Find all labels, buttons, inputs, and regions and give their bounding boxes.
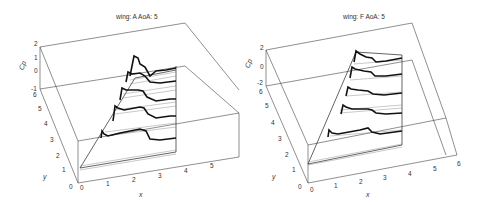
y-tick: 2 <box>285 151 289 158</box>
y-axis-label: y <box>272 173 276 180</box>
y-tick: 0 <box>298 183 302 190</box>
x-tick: 3 <box>383 174 387 181</box>
z-tick: 0 <box>34 67 38 74</box>
x-axis-label: x <box>366 191 370 198</box>
y-axis-label: y <box>43 173 47 180</box>
x-tick: 4 <box>408 170 412 177</box>
y-tick: 4 <box>271 119 275 126</box>
x-tick: 5 <box>210 162 214 169</box>
plot-wing-a-canvas <box>0 0 240 205</box>
z-tick: 2 <box>260 44 264 51</box>
y-tick: 6 <box>259 88 263 95</box>
plot-title: wing: A AoA: 5 <box>116 13 158 20</box>
x-tick: 4 <box>184 167 188 174</box>
x-tick: 3 <box>158 172 162 179</box>
x-axis-label: x <box>139 191 143 198</box>
x-tick: 2 <box>359 178 363 185</box>
z-tick: 2 <box>34 40 38 47</box>
x-tick: 0 <box>80 184 84 191</box>
x-tick: 1 <box>106 180 110 187</box>
y-tick: 3 <box>50 136 54 143</box>
y-tick: 4 <box>44 120 48 127</box>
y-tick: 2 <box>56 152 60 159</box>
z-tick: 1 <box>34 54 38 61</box>
plot-wing-a: wing: A AoA: 5 2 1 0 -1 Cp 6 5 4 3 2 1 0… <box>0 0 240 205</box>
x-tick: 2 <box>132 176 136 183</box>
x-tick: 0 <box>310 186 314 193</box>
x-tick: 5 <box>433 165 437 172</box>
z-tick: -2 <box>257 79 263 86</box>
y-tick: 6 <box>33 91 37 98</box>
y-tick: 1 <box>62 166 66 173</box>
z-tick: 0 <box>260 63 264 70</box>
plot-wing-f: wing: F AoA: 5 2 0 -2 Cp 6 5 4 3 2 1 0 y… <box>240 0 479 205</box>
x-tick: 6 <box>457 160 461 167</box>
y-tick: 3 <box>278 135 282 142</box>
plot-title: wing: F AoA: 5 <box>343 13 385 20</box>
y-tick: 1 <box>292 166 296 173</box>
y-tick: 5 <box>265 102 269 109</box>
y-tick: 0 <box>69 183 73 190</box>
y-tick: 5 <box>38 105 42 112</box>
x-tick: 1 <box>334 182 338 189</box>
